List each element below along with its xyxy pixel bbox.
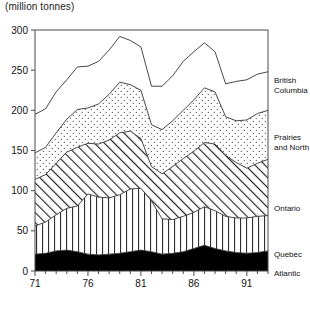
x-tick-label: 81 [135, 278, 147, 289]
legend-label-prairies-and-north: Prairies [274, 133, 301, 142]
y-tick-label: 50 [17, 225, 29, 236]
x-tick-label: 86 [188, 278, 200, 289]
x-tick-label: 76 [82, 278, 94, 289]
x-axis-ticks: 7176818691 [29, 271, 268, 289]
x-tick-label: 91 [241, 278, 253, 289]
chart-container: (million tonnes) 0501 [0, 0, 310, 314]
chart-areas [35, 36, 268, 271]
y-tick-label: 150 [11, 145, 28, 156]
y-tick-label: 100 [11, 185, 28, 196]
stacked-area-chart: 050100150200250300 7176818691 BritishCol… [0, 0, 310, 314]
legend-label-prairies-and-north: and North [274, 143, 309, 152]
y-tick-label: 250 [11, 65, 28, 76]
legend-label-atlantic: Atlantic [274, 269, 300, 278]
legend-label-british-columbia: Columbia [274, 86, 308, 95]
y-tick-label: 0 [22, 266, 28, 277]
y-tick-label: 300 [11, 25, 28, 36]
x-tick-label: 71 [29, 278, 41, 289]
legend-label-ontario: Ontario [274, 204, 301, 213]
legend-label-british-columbia: British [274, 76, 296, 85]
legend-label-quebec: Quebec [274, 250, 302, 259]
y-tick-label: 200 [11, 105, 28, 116]
y-axis-ticks: 050100150200250300 [11, 25, 35, 277]
chart-legend: BritishColumbiaPrairiesand NorthOntarioQ… [274, 76, 309, 278]
